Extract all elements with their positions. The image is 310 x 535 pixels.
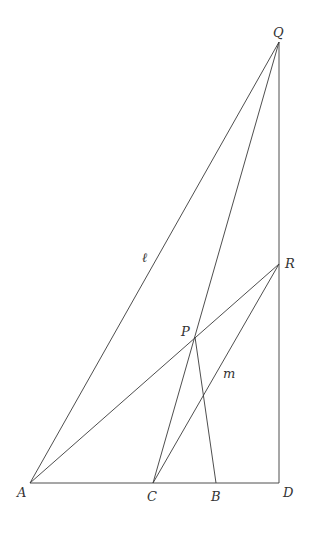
segment-PB (195, 337, 216, 483)
point-label-b: B (210, 489, 221, 504)
segments-group (30, 42, 279, 483)
point-label-d: D (282, 485, 294, 500)
point-label-a: A (16, 485, 26, 500)
line-label-l: ℓ (142, 250, 148, 265)
point-label-p: P (180, 324, 190, 339)
line-m-CR (153, 264, 279, 483)
geometry-diagram: ACBDQRPℓm (0, 0, 310, 535)
segment-QC (153, 42, 279, 483)
point-label-r: R (284, 256, 295, 271)
point-label-c: C (147, 489, 157, 504)
labels-group: ACBDQRPℓm (16, 25, 295, 504)
point-label-q: Q (273, 25, 284, 40)
segment-AR (30, 264, 279, 483)
line-l-AQ (30, 42, 279, 483)
line-label-m: m (223, 366, 235, 381)
